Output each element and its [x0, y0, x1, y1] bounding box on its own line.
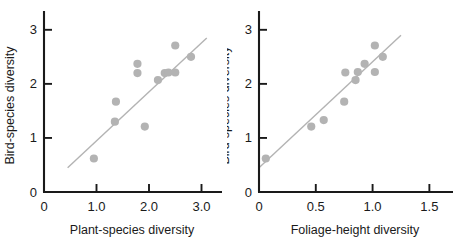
left-x-axis-title: Plant-species diversity	[70, 223, 195, 237]
scatter-plot-figure: 012301.02.03.0Plant-species diversityBir…	[0, 0, 455, 250]
data-point	[187, 53, 195, 61]
data-point	[171, 68, 179, 76]
data-point	[112, 98, 120, 106]
right-x-axis-title: Foliage-height diversity	[291, 223, 420, 237]
data-point	[371, 68, 379, 76]
data-point	[262, 154, 270, 162]
data-point	[351, 76, 359, 84]
panel-plant-species: 012301.02.03.0Plant-species diversityBir…	[0, 0, 227, 250]
y-tick-label: 1	[245, 130, 252, 145]
x-tick-label: 3.0	[192, 199, 210, 214]
data-point	[354, 68, 362, 76]
data-point	[90, 154, 98, 162]
plot-area-right: 012300.51.01.5Foliage-height diversityBi…	[227, 11, 453, 237]
x-tick-label: 0.5	[307, 199, 325, 214]
y-tick-label: 2	[30, 76, 37, 91]
x-tick-label: 1.0	[87, 199, 105, 214]
x-tick-label: 0	[255, 199, 262, 214]
data-point	[171, 41, 179, 49]
panel-foliage-height: 012300.51.01.5Foliage-height diversityBi…	[227, 0, 454, 250]
data-point	[111, 118, 119, 126]
data-point	[361, 60, 369, 68]
left-trendline	[68, 38, 207, 168]
y-tick-label: 3	[245, 22, 252, 37]
left-y-axis-title: Bird-species diversity	[3, 46, 17, 165]
data-point	[371, 41, 379, 49]
data-point	[133, 60, 141, 68]
data-point	[154, 76, 162, 84]
plot-area-left: 012301.02.03.0Plant-species diversityBir…	[3, 11, 222, 237]
panel-foliage-height-svg: 012300.51.01.5Foliage-height diversityBi…	[227, 0, 455, 250]
data-point	[379, 53, 387, 61]
x-tick-label: 2.0	[140, 199, 158, 214]
data-point	[141, 122, 149, 130]
data-point	[133, 69, 141, 77]
data-point	[320, 116, 328, 124]
right-y-axis-title: Bird-species diversity	[227, 46, 232, 165]
data-point	[341, 68, 349, 76]
y-tick-label: 0	[30, 185, 37, 200]
x-tick-label: 1.0	[364, 199, 382, 214]
y-tick-label: 0	[245, 185, 252, 200]
x-tick-label: 0	[40, 199, 47, 214]
y-tick-label: 1	[30, 130, 37, 145]
data-point	[307, 122, 315, 130]
panel-plant-species-svg: 012301.02.03.0Plant-species diversityBir…	[0, 0, 227, 250]
y-tick-label: 3	[30, 22, 37, 37]
x-tick-label: 1.5	[420, 199, 438, 214]
data-point	[340, 98, 348, 106]
y-tick-label: 2	[245, 76, 252, 91]
